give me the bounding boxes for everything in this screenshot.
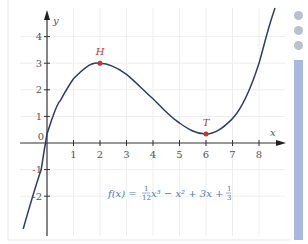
svg-text:12: 12 xyxy=(142,194,151,202)
x-axis-label: x xyxy=(270,127,276,138)
svg-text:1: 1 xyxy=(36,111,42,122)
grid xyxy=(20,8,285,236)
svg-text:4: 4 xyxy=(36,31,42,42)
nav-dot-3[interactable] xyxy=(294,41,303,50)
svg-text:0: 0 xyxy=(38,131,44,142)
svg-text:6: 6 xyxy=(203,149,209,160)
svg-text:2: 2 xyxy=(36,84,42,95)
svg-text:2: 2 xyxy=(97,149,103,160)
svg-text:1: 1 xyxy=(144,185,148,193)
svg-text:3: 3 xyxy=(36,58,42,69)
svg-text:f(x) =: f(x) = xyxy=(107,188,137,199)
function-graph: 1 2 3 4 5 6 7 8 -2 -1 0 1 2 3 4 y x H T … xyxy=(0,0,290,244)
svg-text:3: 3 xyxy=(123,149,129,160)
svg-text:x³ − x² + 3x +: x³ − x² + 3x + xyxy=(151,188,223,199)
y-axis-label: y xyxy=(52,15,59,26)
nav-dot-2[interactable] xyxy=(294,26,303,35)
svg-text:T: T xyxy=(203,117,211,128)
svg-text:H: H xyxy=(95,46,105,57)
svg-text:3: 3 xyxy=(227,194,231,202)
svg-text:1: 1 xyxy=(227,185,231,193)
x-tick-labels: 1 2 3 4 5 6 7 8 xyxy=(70,149,262,160)
page-sidebar xyxy=(290,0,308,244)
function-label: f(x) = 1 12 x³ − x² + 3x + 1 3 xyxy=(107,185,231,202)
svg-text:1: 1 xyxy=(70,149,76,160)
svg-text:5: 5 xyxy=(176,149,182,160)
y-axis xyxy=(44,10,50,236)
svg-text:7: 7 xyxy=(229,149,235,160)
svg-text:8: 8 xyxy=(256,149,262,160)
scroll-bar[interactable] xyxy=(294,60,303,240)
svg-text:4: 4 xyxy=(150,149,156,160)
nav-dot-1[interactable] xyxy=(294,11,303,20)
